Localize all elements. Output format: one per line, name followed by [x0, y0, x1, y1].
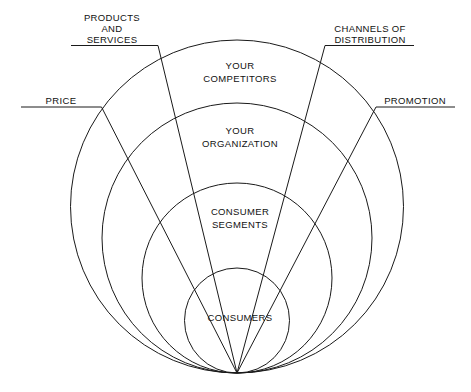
ring-label-organization: YOUR ORGANIZATION [202, 125, 278, 149]
callout-channels-line2: DISTRIBUTION [334, 34, 405, 45]
callout-products-line3: SERVICES [87, 34, 138, 45]
ring-label-consumer-segments: CONSUMER SEGMENTS [211, 206, 269, 230]
diagram-canvas: YOUR COMPETITORS YOUR ORGANIZATION CONSU… [0, 0, 471, 392]
ring-label-organization-line2: ORGANIZATION [202, 138, 278, 149]
ring-label-consumer-segments-line2: SEGMENTS [212, 219, 268, 230]
ring-label-competitors-line1: YOUR [226, 60, 255, 71]
ring-label-organization-line1: YOUR [226, 125, 255, 136]
callout-label-price: PRICE [46, 95, 77, 106]
callout-products-line1: PRODUCTS [84, 12, 140, 23]
callout-products-line2: AND [101, 23, 122, 34]
callout-label-channels-of-distribution: CHANNELS OF DISTRIBUTION [334, 23, 405, 45]
callout-label-products-and-services: PRODUCTS AND SERVICES [84, 12, 140, 45]
ring-label-consumers-line1: CONSUMERS [208, 312, 273, 323]
callout-promotion-line1: PROMOTION [384, 95, 446, 106]
ring-label-competitors-line2: COMPETITORS [203, 73, 276, 84]
callout-channels-line1: CHANNELS OF [334, 23, 405, 34]
ring-label-consumer-segments-line1: CONSUMER [211, 206, 269, 217]
callout-label-promotion: PROMOTION [384, 95, 446, 106]
ring-label-competitors: YOUR COMPETITORS [203, 60, 276, 84]
ring-label-consumers: CONSUMERS [208, 312, 273, 323]
callout-price-line1: PRICE [46, 95, 77, 106]
market-environment-diagram: YOUR COMPETITORS YOUR ORGANIZATION CONSU… [0, 0, 471, 392]
